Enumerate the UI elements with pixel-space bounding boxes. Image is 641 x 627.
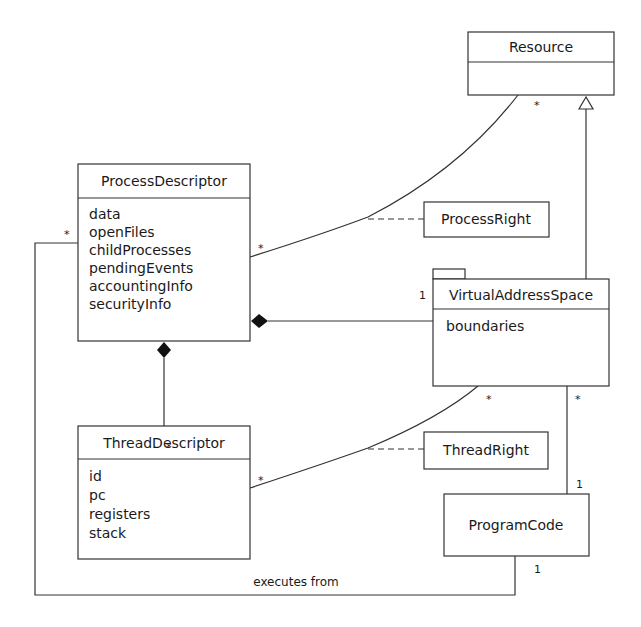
class-name: ThreadRight bbox=[442, 442, 529, 458]
attribute: stack bbox=[89, 525, 127, 541]
attribute: id bbox=[89, 468, 102, 484]
multiplicity-label: * bbox=[166, 441, 172, 454]
multiplicity-label: * bbox=[486, 393, 492, 406]
uml-diagram: Resource ProcessDescriptor data openFile… bbox=[0, 0, 641, 627]
generalization-arrow-icon bbox=[579, 97, 593, 109]
class-virtual-address-space[interactable]: VirtualAddressSpace boundaries bbox=[433, 269, 609, 386]
multiplicity-label: * bbox=[575, 393, 581, 406]
class-name: ProcessDescriptor bbox=[101, 173, 227, 189]
class-program-code[interactable]: ProgramCode bbox=[444, 494, 589, 556]
class-name: VirtualAddressSpace bbox=[449, 287, 593, 303]
multiplicity-label: * bbox=[64, 228, 70, 241]
class-name: ProcessRight bbox=[441, 211, 531, 227]
attribute: boundaries bbox=[446, 318, 524, 334]
package-tab bbox=[433, 269, 465, 279]
attribute: childProcesses bbox=[89, 242, 191, 258]
multiplicity-label: * bbox=[258, 242, 264, 255]
attribute: openFiles bbox=[89, 224, 155, 240]
attribute: data bbox=[89, 206, 121, 222]
attribute: accountingInfo bbox=[89, 278, 193, 294]
attribute: securityInfo bbox=[89, 296, 171, 312]
attribute: registers bbox=[89, 506, 150, 522]
association-label: executes from bbox=[253, 575, 339, 589]
class-name: ProgramCode bbox=[469, 517, 564, 533]
class-name: ThreadDescriptor bbox=[102, 435, 225, 451]
class-process-right[interactable]: ProcessRight bbox=[424, 202, 549, 237]
multiplicity-label: 1 bbox=[419, 289, 426, 302]
multiplicity-label: 1 bbox=[534, 563, 541, 576]
attribute: pc bbox=[89, 487, 106, 503]
composition-diamond-icon bbox=[157, 342, 171, 358]
class-thread-descriptor[interactable]: ThreadDescriptor id pc registers stack bbox=[78, 426, 250, 559]
class-resource[interactable]: Resource bbox=[468, 32, 614, 95]
attribute: pendingEvents bbox=[89, 260, 193, 276]
class-name: Resource bbox=[509, 39, 573, 55]
class-thread-right[interactable]: ThreadRight bbox=[424, 432, 548, 469]
multiplicity-label: 1 bbox=[576, 478, 583, 491]
multiplicity-label: * bbox=[534, 99, 540, 112]
multiplicity-label: * bbox=[258, 474, 264, 487]
composition-diamond-icon bbox=[251, 314, 268, 328]
class-process-descriptor[interactable]: ProcessDescriptor data openFiles childPr… bbox=[78, 164, 250, 341]
